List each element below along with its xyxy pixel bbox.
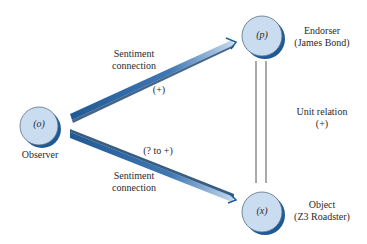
object-symbol: (x) [247,205,277,217]
lower-edge-label-line2: connection [104,182,164,194]
endorser-name: (James Bond) [292,37,352,49]
observer-symbol: (o) [24,118,54,130]
lower-edge-label: Sentiment connection [104,170,164,194]
endorser-label: Endorser (James Bond) [292,25,352,49]
unit-relation-sign: (+) [290,118,354,130]
lower-edge-label-line1: Sentiment [104,170,164,182]
object-label: Object (Z3 Roadster) [290,199,354,223]
endorser-symbol: (p) [247,29,277,41]
upper-edge-label-line2: connection [104,60,164,72]
observer-label: Observer [18,149,62,161]
object-name: (Z3 Roadster) [290,211,354,223]
upper-edge-label: Sentiment connection [104,48,164,72]
unit-relation-lines [256,61,266,183]
unit-relation-label: Unit relation (+) [290,106,354,130]
upper-edge-sign: (+) [148,84,170,96]
endorser-role: Endorser [292,25,352,37]
lower-edge-sign: (? to +) [138,145,178,157]
upper-edge-label-line1: Sentiment [104,48,164,60]
unit-relation-label-line1: Unit relation [290,106,354,118]
object-role: Object [290,199,354,211]
